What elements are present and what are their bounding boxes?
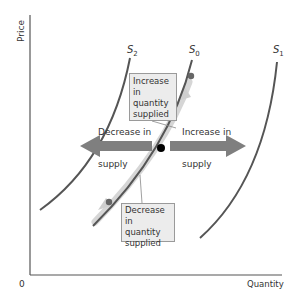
y-axis-label: Price <box>16 20 26 42</box>
box-line: Decrease in <box>125 205 171 227</box>
box-line: supplied <box>125 238 171 249</box>
box-line: quantity <box>125 227 171 238</box>
box-line: Increase in <box>133 76 173 98</box>
origin-label: 0 <box>19 280 25 289</box>
increase-supply-label-line1: Increase in <box>182 128 231 137</box>
decrease-supply-arrow <box>80 135 152 157</box>
decrease-supply-label-line2: supply <box>98 160 128 169</box>
box-line: supplied <box>133 109 173 120</box>
curve-label-s2: S2 <box>127 44 138 58</box>
curve-label-s2-sub: 2 <box>133 50 137 58</box>
decrease-supply-label-line1: Decrease in <box>98 128 151 137</box>
lower-point <box>106 199 112 205</box>
increase-supply-arrow <box>170 135 246 157</box>
increase-quantity-supplied-box: Increase in quantity supplied <box>129 73 177 121</box>
curve-label-s0: S0 <box>189 44 200 58</box>
equilibrium-point <box>157 144 165 152</box>
leader-decrease-qs <box>140 175 142 203</box>
curve-label-s1-sub: 1 <box>279 50 283 58</box>
upper-point <box>188 73 194 79</box>
decrease-quantity-supplied-box: Decrease in quantity supplied <box>121 203 175 242</box>
supply-diagram <box>0 0 297 300</box>
increase-supply-label-line2: supply <box>182 160 212 169</box>
box-line: quantity <box>133 98 173 109</box>
x-axis-label: Quantity <box>247 280 284 289</box>
curve-label-s0-sub: 0 <box>195 50 199 58</box>
curve-label-s1: S1 <box>273 44 284 58</box>
